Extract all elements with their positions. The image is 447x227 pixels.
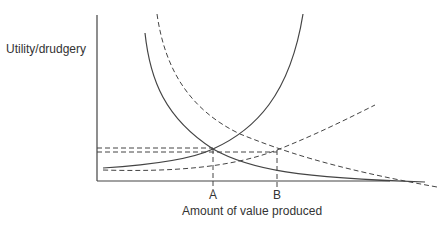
drudgery-curve-solid (103, 14, 303, 168)
utility-curve-solid (145, 33, 425, 182)
point-a-label: A (209, 188, 217, 202)
diagram-canvas (0, 0, 447, 227)
point-b-label: B (273, 188, 281, 202)
y-axis-label: Utility/drudgery (6, 42, 86, 56)
utility-curve-dashed (157, 14, 437, 187)
x-axis-label: Amount of value produced (182, 204, 322, 218)
drudgery-curve-dashed (103, 105, 375, 170)
